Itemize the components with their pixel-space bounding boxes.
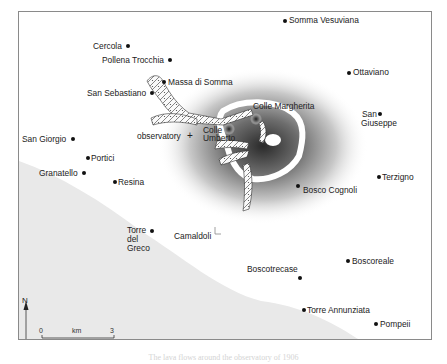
label-somma-vesuviana: Somma Vesuviana	[289, 16, 359, 25]
place-dot-boscoreale	[346, 259, 350, 263]
map-frame	[18, 11, 432, 340]
label-ottaviano: Ottaviano	[353, 68, 389, 77]
place-dot-pollena-trocchia	[168, 58, 172, 62]
label-bosco-cognoli: Bosco Cognoli	[303, 186, 357, 195]
place-dot-massa-di-somma	[162, 80, 166, 84]
observatory-marker: +	[187, 131, 193, 140]
label-terzigno: Terzigno	[382, 173, 414, 182]
label-pompeii: Pompeii	[380, 320, 410, 329]
place-dot-san-sebastiano	[150, 91, 154, 95]
label-camaldoli: Camaldoli	[174, 232, 211, 241]
label-boscoreale: Boscoreale	[352, 257, 394, 266]
label-umberto: Umberto	[203, 134, 235, 143]
place-dot-resina	[113, 180, 117, 184]
place-dot-san-giuseppe	[378, 112, 382, 116]
label-pollena-trocchia: Pollena Trocchia	[102, 56, 164, 65]
label-resina: Resina	[118, 178, 144, 187]
scale-start: 0	[39, 327, 43, 334]
label-san-giorgio: San Giorgio	[22, 135, 66, 144]
label-boscotrecase: Boscotrecase	[247, 265, 298, 274]
label-granatello: Granatello	[39, 169, 78, 178]
vesuvius-shading	[158, 68, 368, 224]
place-dot-bosco-cognoli	[296, 184, 300, 188]
label-greco: Greco	[127, 244, 150, 253]
inner-cone	[265, 134, 281, 146]
place-dot-somma-vesuviana	[283, 19, 287, 23]
label-observatory: observatory	[137, 132, 181, 141]
label-colle-margherita: Colle Margherita	[253, 102, 314, 111]
north-label: N	[22, 296, 28, 305]
place-dot-san-giorgio	[71, 137, 75, 141]
label-giuseppe: Giuseppe	[361, 119, 397, 128]
label-cercola: Cercola	[93, 42, 122, 51]
place-dot-terzigno	[377, 175, 381, 179]
place-dot-granatello	[82, 171, 86, 175]
scale-unit: km	[72, 327, 81, 334]
label-massa-di-somma: Massa di Somma	[168, 78, 233, 87]
place-dot-portici	[86, 156, 90, 160]
place-dot-cercola	[126, 44, 130, 48]
place-dot-torre-del-greco	[150, 229, 154, 233]
scale-end: 3	[110, 327, 114, 334]
camaldoli-marker	[215, 227, 221, 234]
place-dot-torre-annunziata	[302, 308, 306, 312]
map-canvas	[19, 12, 432, 340]
label-portici: Portici	[91, 154, 114, 163]
label-san-sebastiano: San Sebastiano	[87, 89, 146, 98]
place-dot-pompeii	[374, 322, 378, 326]
label-torre-annunziata: Torre Annunziata	[307, 306, 370, 315]
place-dot-ottaviano	[347, 71, 351, 75]
map-caption: The lava flows around the observatory of…	[0, 353, 447, 362]
place-dot-boscotrecase	[298, 276, 302, 280]
